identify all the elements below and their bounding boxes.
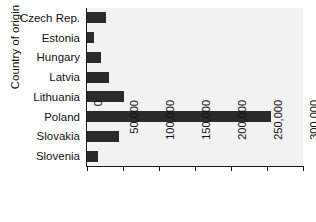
bar-row [87,28,303,48]
x-tick-label: 0 [92,100,105,174]
y-tick-label: Czech Rep. [8,8,84,28]
x-tick-mark [231,167,232,171]
x-tick-mark [159,167,160,171]
x-tick-mark [87,167,88,171]
x-tick-mark [123,167,124,171]
bar [87,72,109,83]
bar [87,32,94,43]
y-tick-label: Poland [8,107,84,127]
bar-row [87,48,303,68]
y-axis-line [86,8,87,167]
bar-row [87,8,303,28]
bar-row [87,87,303,107]
y-tick-label: Lithuania [8,87,84,107]
bar-row [87,127,303,147]
x-tick-label: 250,000 [272,100,285,174]
x-tick-label: 150,000 [200,100,213,174]
bar-chart-figure: Country of origin Czech Rep. Estonia Hun… [0,0,316,222]
y-tick-label: Slovakia [8,127,84,147]
bar-row [87,146,303,166]
x-tick-label: 100,000 [164,100,177,174]
x-tick-label: 200,000 [236,100,249,174]
chart-title [0,0,316,3]
y-tick-label: Latvia [8,67,84,87]
y-tick-label: Slovenia [8,146,84,166]
bar [87,12,106,23]
x-tick-label: 300,000 [308,100,316,174]
bar-row [87,67,303,87]
y-tick-label: Hungary [8,48,84,68]
y-tick-label: Estonia [8,28,84,48]
y-axis-tick-labels: Czech Rep. Estonia Hungary Latvia Lithua… [8,8,84,166]
x-tick-mark [195,167,196,171]
bar-row [87,107,303,127]
x-tick-mark [303,167,304,171]
x-tick-label: 50,000 [128,100,141,174]
bar-series [87,8,303,166]
x-tick-mark [267,167,268,171]
plot-area [87,8,303,166]
bar [87,52,101,63]
